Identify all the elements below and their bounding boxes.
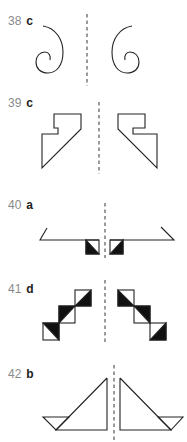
- hook-shape-right: [118, 114, 157, 168]
- hull-right: [158, 417, 183, 430]
- hook-shape-left: [42, 114, 81, 168]
- spiral-right: [112, 26, 139, 73]
- stair-triangle: [59, 306, 75, 323]
- triangle-right: [110, 240, 123, 254]
- stair-triangle: [43, 323, 59, 340]
- spiral-left: [36, 26, 63, 73]
- stair-triangle: [118, 290, 134, 306]
- baseline-left: [40, 228, 99, 240]
- stair-triangle: [75, 290, 91, 306]
- hull-left: [43, 417, 69, 430]
- triangle-left: [86, 240, 99, 254]
- figures-canvas: [0, 0, 187, 442]
- stair-triangle: [134, 306, 150, 323]
- item-40-figure: [40, 203, 174, 258]
- item-42-figure: [43, 365, 183, 440]
- item-39-figure: [42, 102, 157, 174]
- item-41-figure: [43, 280, 166, 345]
- baseline-right: [110, 227, 174, 240]
- stair-triangle: [150, 323, 166, 340]
- item-38-figure: [36, 14, 139, 86]
